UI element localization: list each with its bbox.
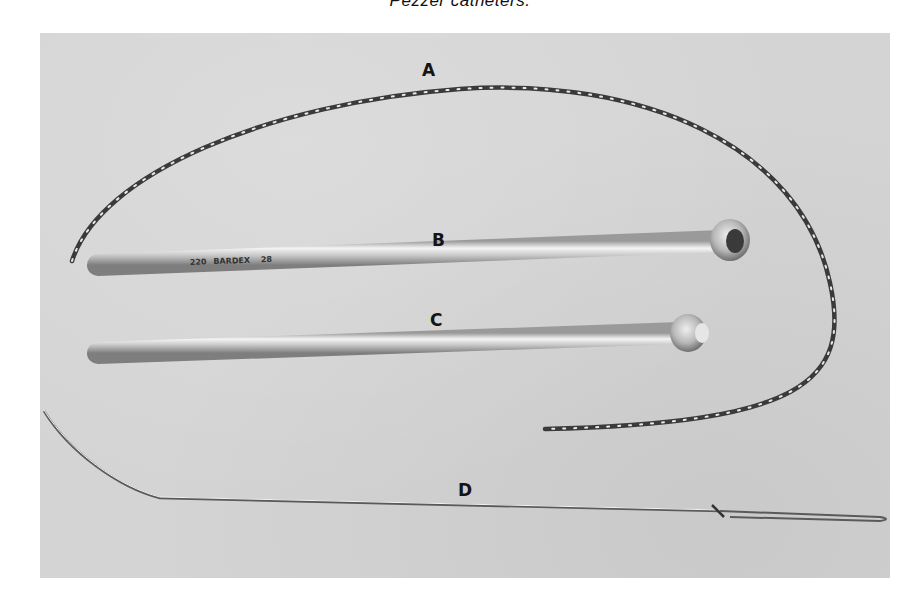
label-d: D xyxy=(458,480,472,500)
catheter-b-print-size: 28 xyxy=(261,255,273,264)
label-a: A xyxy=(422,60,435,80)
wire-stylet-d xyxy=(44,410,886,521)
catheter-c xyxy=(98,314,709,353)
catheter-b-print-prefix: 220 xyxy=(190,257,207,267)
catheter-photograph: 220 BARDEX 28 A B C D xyxy=(40,33,890,578)
figure-caption: Pezzer catheters. xyxy=(0,0,920,11)
label-b: B xyxy=(432,230,445,250)
label-c: C xyxy=(430,310,442,330)
catheter-b-print: BARDEX xyxy=(213,256,251,266)
catheter-b: 220 BARDEX 28 xyxy=(98,219,750,267)
